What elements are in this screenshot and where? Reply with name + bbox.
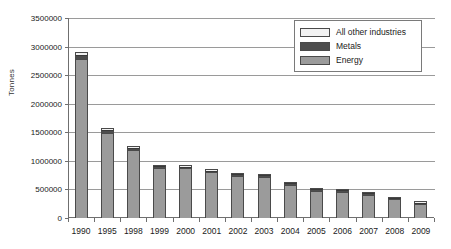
bar-slot (68, 18, 94, 218)
stacked-bar[interactable] (153, 165, 166, 218)
legend-label: Energy (336, 55, 363, 65)
bar-segment-energy (179, 168, 192, 218)
x-axis-tick (356, 218, 357, 222)
x-axis-tick (382, 218, 383, 222)
bar-segment-energy (258, 177, 271, 218)
y-axis-tick-label: 1000000 (31, 156, 62, 165)
stacked-bar[interactable] (336, 189, 349, 218)
x-axis-tick-label: 2009 (408, 226, 434, 236)
x-axis-tick (120, 218, 121, 222)
stacked-bar[interactable] (179, 165, 192, 218)
x-axis-tick (408, 218, 409, 222)
chart-legend: All other industriesMetalsEnergy (294, 20, 422, 72)
x-axis-tick (173, 218, 174, 222)
x-axis-tick (277, 218, 278, 222)
x-axis-tick (303, 218, 304, 222)
bar-segment-energy (284, 185, 297, 218)
bar-segment-energy (310, 191, 323, 218)
y-axis-tick-label: 1500000 (31, 128, 62, 137)
bar-segment-energy (205, 172, 218, 218)
bar-segment-energy (388, 199, 401, 218)
stacked-bar[interactable] (388, 197, 401, 218)
x-axis-tick-label: 2004 (277, 226, 303, 236)
x-axis-tick (225, 218, 226, 222)
x-axis-tick (199, 218, 200, 222)
stacked-bar[interactable] (205, 169, 218, 218)
x-axis-tick-label: 2005 (303, 226, 329, 236)
bar-segment-energy (336, 192, 349, 218)
stacked-bar[interactable] (284, 182, 297, 218)
legend-swatch-icon (300, 56, 330, 65)
stacked-bar[interactable] (75, 52, 88, 218)
x-axis-tick (434, 218, 435, 222)
x-axis-tick (251, 218, 252, 222)
legend-swatch-icon (300, 28, 330, 37)
bar-segment-energy (362, 195, 375, 218)
bar-segment-energy (75, 59, 88, 218)
stacked-bar[interactable] (258, 174, 271, 218)
y-axis-tick-label: 3000000 (31, 42, 62, 51)
bar-segment-energy (101, 133, 114, 218)
stacked-bar-chart: Tonnes 199019951998199920002001200220032… (0, 0, 451, 249)
x-axis-tick-label: 2003 (251, 226, 277, 236)
bar-segment-energy (231, 176, 244, 218)
x-axis-tick-label: 2002 (225, 226, 251, 236)
bar-segment-energy (153, 168, 166, 218)
stacked-bar[interactable] (310, 188, 323, 218)
legend-item[interactable]: All other industries (300, 25, 416, 39)
x-axis-tick-label: 1998 (120, 226, 146, 236)
legend-label: All other industries (336, 27, 406, 37)
x-axis-tick-label: 2006 (329, 226, 355, 236)
y-axis-tick-label: 2500000 (31, 71, 62, 80)
stacked-bar[interactable] (414, 201, 427, 218)
legend-swatch-icon (300, 42, 330, 51)
bar-slot (94, 18, 120, 218)
bar-slot (173, 18, 199, 218)
x-axis-ticks (68, 218, 434, 223)
x-axis-tick-label: 1990 (68, 226, 94, 236)
y-axis-tick-label: 0 (58, 214, 62, 223)
x-axis-tick (329, 218, 330, 222)
bar-slot (120, 18, 146, 218)
x-axis-tick-label: 2008 (382, 226, 408, 236)
y-axis-tick-label: 2000000 (31, 99, 62, 108)
y-axis-tick-label: 3500000 (31, 14, 62, 23)
bar-segment-energy (414, 204, 427, 218)
legend-item[interactable]: Metals (300, 39, 416, 53)
stacked-bar[interactable] (101, 128, 114, 218)
bar-slot (199, 18, 225, 218)
stacked-bar[interactable] (127, 146, 140, 218)
x-axis-tick (94, 218, 95, 222)
x-axis-tick (68, 218, 69, 222)
stacked-bar[interactable] (362, 192, 375, 218)
x-axis-tick (146, 218, 147, 222)
x-axis-tick-label: 2007 (356, 226, 382, 236)
bar-slot (251, 18, 277, 218)
legend-item[interactable]: Energy (300, 53, 416, 67)
stacked-bar[interactable] (231, 173, 244, 218)
x-axis-tick-label: 2000 (173, 226, 199, 236)
bar-segment-energy (127, 150, 140, 218)
legend-label: Metals (336, 41, 361, 51)
y-axis-tick-label: 500000 (35, 185, 62, 194)
x-axis-tick-label: 2001 (199, 226, 225, 236)
x-axis-tick-labels: 1990199519981999200020012002200320042005… (68, 226, 434, 236)
bar-slot (146, 18, 172, 218)
x-axis-tick-label: 1999 (146, 226, 172, 236)
bar-slot (225, 18, 251, 218)
x-axis-tick-label: 1995 (94, 226, 120, 236)
y-axis-title: Tonnes (7, 69, 16, 96)
